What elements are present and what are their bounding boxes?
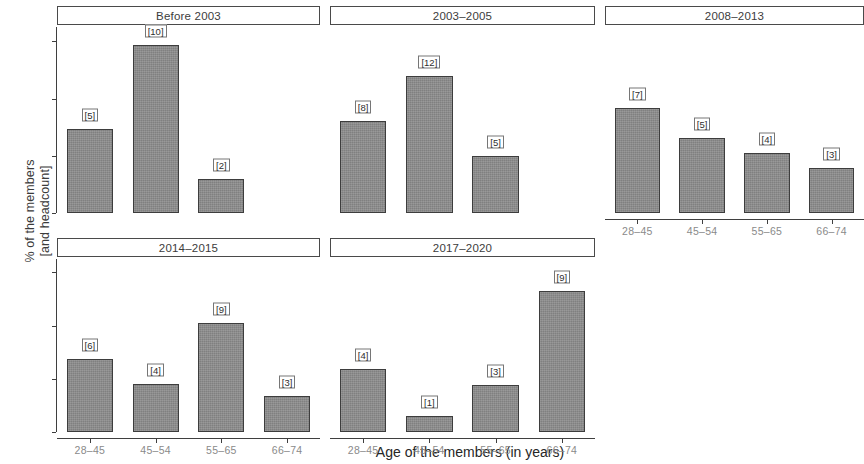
- bar: [67, 129, 113, 213]
- bar-slot: [12]: [396, 27, 462, 213]
- bar: [539, 291, 585, 432]
- y-axis: 0204060: [0, 0, 57, 464]
- y-axis-tick: [52, 379, 56, 380]
- bar-slot: [4]: [123, 259, 189, 432]
- x-axis-tick: [562, 439, 563, 443]
- x-axis-tick: [221, 439, 222, 443]
- bar-count-label: [3]: [279, 375, 296, 388]
- x-axis-tick: [767, 220, 768, 224]
- x-axis-tick: [90, 439, 91, 443]
- bar-count-label: [4]: [759, 132, 776, 145]
- bar-count-label: [9]: [554, 271, 571, 284]
- faceted-bar-chart: % of the members [and headcount] Age of …: [0, 0, 864, 464]
- bar-slot: [7]: [605, 27, 670, 213]
- bar-slot: [6]: [57, 259, 123, 432]
- facet-panel: 2017–2020[4][1][3][9]: [330, 238, 595, 432]
- x-axis-tick: [429, 439, 430, 443]
- bar: [472, 385, 518, 432]
- bar-count-label: [9]: [213, 303, 230, 316]
- bar-count-label: [12]: [418, 55, 440, 68]
- bar: [67, 359, 113, 432]
- x-axis-tick-label: 28–45: [605, 225, 670, 237]
- y-axis-tick: [52, 272, 56, 273]
- facet-plot-area: [4][1][3][9]: [330, 259, 595, 432]
- x-axis-tick-label: 45–54: [123, 444, 189, 456]
- facet-panel: 2008–2013[7][5][4][3]: [605, 6, 864, 213]
- x-axis-tick-label: 55–65: [189, 444, 255, 456]
- bar-slot: [254, 27, 320, 213]
- bar-group: [8][12][5]: [330, 27, 595, 213]
- x-axis-line: [330, 438, 595, 439]
- bar-slot: [3]: [254, 259, 320, 432]
- bar-count-label: [1]: [421, 396, 438, 409]
- bar-count-label: [5]: [82, 108, 99, 121]
- bar-count-label: [10]: [145, 24, 167, 37]
- facet-plot-area: [8][12][5]: [330, 27, 595, 213]
- bar-count-label: [2]: [213, 159, 230, 172]
- facet-strip-label: 2003–2005: [330, 6, 595, 25]
- bar: [615, 108, 660, 213]
- facet-plot-area: [7][5][4][3]: [605, 27, 864, 213]
- x-axis-tick: [832, 220, 833, 224]
- bar-slot: [4]: [330, 259, 396, 432]
- facet-strip-label: 2008–2013: [605, 6, 864, 25]
- x-axis-tick-label: 66–74: [799, 225, 864, 237]
- x-axis-tick: [496, 439, 497, 443]
- x-axis-tick-label: 66–74: [254, 444, 320, 456]
- bar-count-label: [7]: [629, 87, 646, 100]
- x-axis-tick-label: 55–65: [463, 444, 529, 456]
- bar-count-label: [4]: [355, 349, 372, 362]
- x-axis-tick-labels: 28–4545–5455–6566–74: [330, 444, 595, 456]
- facet-strip-label: 2014–2015: [57, 238, 320, 257]
- bar: [133, 384, 179, 432]
- facet-strip-label: 2017–2020: [330, 238, 595, 257]
- x-axis-tick: [363, 439, 364, 443]
- bar-count-label: [4]: [147, 363, 164, 376]
- bar: [198, 323, 244, 432]
- bar: [264, 396, 310, 432]
- bar-slot: [5]: [670, 27, 735, 213]
- x-axis-tick-label: 66–74: [529, 444, 595, 456]
- facet-panel: 2014–2015[6][4][9][3]: [57, 238, 320, 432]
- y-axis-tick: [52, 432, 56, 433]
- bar: [809, 168, 854, 213]
- bar-count-label: [6]: [82, 339, 99, 352]
- facet-plot-area: [5][10][2]: [57, 27, 320, 213]
- x-axis-tick-label: 55–65: [735, 225, 800, 237]
- bar: [406, 416, 452, 432]
- x-axis-tick: [287, 439, 288, 443]
- bar: [406, 76, 452, 213]
- x-axis-tick-label: 28–45: [57, 444, 123, 456]
- bar-group: [7][5][4][3]: [605, 27, 864, 213]
- x-axis-tick-label: 45–54: [670, 225, 735, 237]
- bar-count-label: [5]: [694, 117, 711, 130]
- bar: [198, 179, 244, 213]
- bar-slot: [9]: [189, 259, 255, 432]
- bar-slot: [529, 27, 595, 213]
- bar-group: [4][1][3][9]: [330, 259, 595, 432]
- x-axis-tick: [702, 220, 703, 224]
- bar: [679, 138, 724, 213]
- bar-count-label: [8]: [355, 101, 372, 114]
- bar: [340, 121, 386, 213]
- bar-group: [6][4][9][3]: [57, 259, 320, 432]
- bar: [133, 45, 179, 213]
- x-axis-line: [57, 438, 320, 439]
- bar-slot: [5]: [57, 27, 123, 213]
- bar-slot: [2]: [189, 27, 255, 213]
- facet-panel: Before 2003[5][10][2]: [57, 6, 320, 213]
- bar-count-label: [3]: [487, 365, 504, 378]
- facet-panel: 2003–2005[8][12][5]: [330, 6, 595, 213]
- bar-slot: [3]: [463, 259, 529, 432]
- x-axis-tick: [637, 220, 638, 224]
- x-axis-tick: [156, 439, 157, 443]
- bar-slot: [9]: [529, 259, 595, 432]
- y-axis-tick: [52, 326, 56, 327]
- bar-count-label: [3]: [823, 147, 840, 160]
- facet-plot-area: [6][4][9][3]: [57, 259, 320, 432]
- x-axis-tick-labels: 28–4545–5455–6566–74: [605, 225, 864, 237]
- bar: [472, 156, 518, 213]
- x-axis-tick-label: 28–45: [330, 444, 396, 456]
- facet-strip-label: Before 2003: [57, 6, 320, 25]
- bar-slot: [8]: [330, 27, 396, 213]
